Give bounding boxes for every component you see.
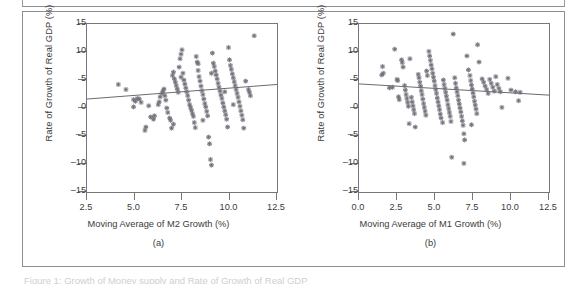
data-point-marker [442, 82, 447, 87]
data-point-marker [239, 113, 244, 118]
x-axis-tick [548, 193, 549, 200]
data-point-marker [201, 97, 206, 102]
data-point-marker [456, 98, 461, 103]
data-point-marker [240, 117, 245, 122]
panel-b-y-axis: 151050–5–10–15 [295, 12, 358, 204]
panel-b: Rate of Growth of Real GDP (%) 151050–5–… [295, 12, 566, 268]
data-point-marker [207, 141, 212, 146]
data-point-marker [516, 98, 521, 103]
data-point-marker [423, 109, 428, 114]
data-point-marker [171, 122, 176, 127]
data-point-marker [471, 94, 476, 99]
data-point-marker [417, 75, 422, 80]
data-point-marker [380, 64, 385, 69]
data-point-marker [474, 111, 479, 116]
data-point-marker [475, 42, 480, 47]
data-point-marker [438, 112, 443, 117]
y-axis-tick-label: –5 [312, 129, 358, 139]
data-point-marker [509, 88, 514, 93]
panel-b-plot-area [358, 23, 550, 193]
data-point-marker [234, 87, 239, 92]
data-point-marker [404, 92, 409, 97]
data-point-marker [403, 88, 408, 93]
data-point-marker [474, 107, 479, 112]
data-point-marker [179, 75, 184, 80]
data-point-marker [180, 47, 185, 52]
data-point-marker [405, 100, 410, 105]
data-point-marker [236, 95, 241, 100]
data-point-marker [162, 86, 167, 91]
panel-a-scatter-svg [87, 24, 277, 192]
y-axis-tick-label: 0 [40, 101, 86, 111]
figure-caption-clipped: Figure 1: Growth of Money supply and Rat… [24, 276, 544, 284]
data-point-marker [427, 49, 432, 54]
data-point-marker [448, 114, 453, 119]
data-point-marker [437, 107, 442, 112]
data-point-marker [434, 91, 439, 96]
data-point-marker [231, 75, 236, 80]
data-point-marker [493, 74, 498, 79]
data-point-marker [447, 110, 452, 115]
data-point-marker [233, 83, 238, 88]
data-point-marker [465, 53, 470, 58]
data-point-marker [252, 33, 257, 38]
data-point-marker [199, 84, 204, 89]
data-point-marker [178, 56, 183, 61]
data-point-marker [209, 71, 214, 76]
panel-b-x-axis-title: Moving Average of M1 Growth (%) [295, 219, 566, 229]
data-point-marker [446, 106, 451, 111]
data-point-marker [427, 53, 432, 58]
data-point-marker [401, 65, 406, 70]
data-point-marker [196, 68, 201, 73]
data-point-marker [230, 71, 235, 76]
y-axis-tick-label: 5 [312, 73, 358, 83]
x-axis-tick-label: 12.5 [256, 202, 296, 212]
data-point-marker [185, 93, 190, 98]
x-axis-tick [358, 193, 359, 200]
data-point-marker [500, 105, 505, 110]
data-point-marker [435, 95, 440, 100]
data-point-marker [468, 78, 473, 83]
x-axis-tick [229, 193, 230, 200]
data-point-marker [408, 56, 413, 61]
data-point-marker [469, 122, 474, 127]
panels-container: Rate of Growth of Real GDP (%) 151050–5–… [23, 12, 564, 266]
panel-b-scatter-svg [359, 24, 549, 192]
data-point-marker [458, 109, 463, 114]
data-point-marker [486, 91, 491, 96]
y-axis-tick-label: –15 [312, 185, 358, 195]
data-point-marker [208, 157, 213, 162]
data-point-marker [506, 76, 511, 81]
data-point-marker [431, 75, 436, 80]
x-axis-tick-label: 2.5 [66, 202, 106, 212]
panel-a-y-axis: 151050–5–10–15 [23, 12, 86, 204]
data-point-marker [179, 52, 184, 57]
panel-a-x-axis-title: Moving Average of M2 Growth (%) [23, 219, 294, 229]
y-axis-tick-label: –5 [40, 129, 86, 139]
x-axis-tick-label: 12.5 [528, 202, 568, 212]
data-point-marker [177, 65, 182, 70]
data-point-marker [407, 121, 412, 126]
data-point-marker [163, 98, 168, 103]
x-axis-tick [434, 193, 435, 200]
data-point-marker [409, 95, 414, 100]
data-point-marker [204, 109, 209, 114]
data-point-marker [198, 79, 203, 84]
data-point-marker [440, 120, 445, 125]
data-point-marker [471, 90, 476, 95]
data-point-marker [231, 102, 236, 107]
data-point-marker [436, 103, 441, 108]
data-point-marker [411, 107, 416, 112]
data-point-marker [226, 45, 231, 50]
data-point-marker [472, 99, 477, 104]
data-point-marker [216, 81, 221, 86]
data-point-marker [477, 60, 482, 65]
data-point-marker [449, 119, 454, 124]
data-point-marker [445, 98, 450, 103]
data-point-marker [454, 85, 459, 90]
data-point-marker [201, 92, 206, 97]
data-point-marker [449, 155, 454, 160]
data-point-marker [492, 89, 497, 94]
figure-page: Rate of Growth of Real GDP (%) 151050–5–… [0, 0, 571, 284]
data-point-marker [400, 60, 405, 65]
